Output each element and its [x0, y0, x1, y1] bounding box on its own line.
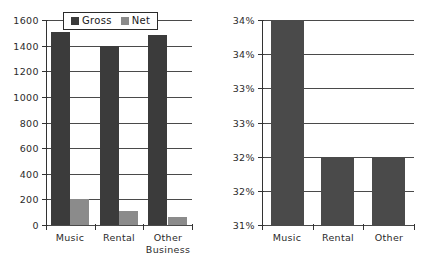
y-tick-label: 33%: [233, 118, 255, 129]
y-tick-label: 1400: [13, 41, 39, 52]
x-axis-label-rental: Rental: [322, 232, 354, 244]
y-tick-label: 1200: [13, 66, 39, 77]
bar-gross-rental: [100, 46, 119, 225]
y-tick-label: 32%: [233, 152, 255, 163]
x-tick-mark: [363, 224, 364, 230]
y-tick-label: 0: [33, 220, 39, 231]
y-tick-label: 200: [20, 194, 39, 205]
gridline: [46, 225, 192, 226]
bar-margin-other: [372, 157, 405, 225]
x-axis-label-other: Other: [375, 232, 403, 244]
left-chart-plot-area: 02004006008001000120014001600MusicRental…: [46, 20, 192, 226]
x-tick-mark: [143, 224, 144, 230]
y-tick-mark: [42, 225, 48, 226]
legend-label-gross: Gross: [82, 15, 112, 26]
two-panel-bar-chart-figure: 02004006008001000120014001600MusicRental…: [0, 0, 421, 275]
y-tick-label: 1000: [13, 92, 39, 103]
legend-label-net: Net: [132, 15, 150, 26]
x-tick-mark: [313, 224, 314, 230]
y-tick-mark: [258, 225, 264, 226]
chart-legend: Gross Net: [63, 12, 158, 30]
left-chart-panel: 02004006008001000120014001600MusicRental…: [0, 0, 211, 275]
legend-swatch-gross-icon: [71, 17, 79, 25]
bar-gross-music: [51, 32, 70, 225]
x-axis-label-other-business: OtherBusiness: [146, 232, 190, 256]
y-tick-mark: [258, 54, 264, 55]
y-tick-label: 400: [20, 169, 39, 180]
right-chart-plot-area: 31%32%32%33%33%34%34%MusicRentalOther: [262, 20, 414, 226]
legend-item-gross: Gross: [71, 15, 112, 26]
y-tick-label: 1600: [13, 15, 39, 26]
bar-net-other-business: [168, 217, 187, 225]
right-chart-panel: 31%32%32%33%33%34%34%MusicRentalOther: [210, 0, 421, 275]
bar-gross-other-business: [148, 35, 167, 225]
x-tick-mark: [192, 224, 193, 230]
x-axis-label-rental: Rental: [103, 232, 135, 244]
x-tick-mark: [95, 224, 96, 230]
y-tick-label: 32%: [233, 186, 255, 197]
x-tick-mark-origin: [262, 224, 263, 230]
y-tick-mark: [42, 199, 48, 200]
y-tick-mark: [42, 174, 48, 175]
legend-swatch-net-icon: [121, 17, 129, 25]
bar-margin-rental: [321, 157, 354, 225]
x-tick-mark: [414, 224, 415, 230]
x-axis-label-music: Music: [56, 232, 85, 244]
bar-net-rental: [119, 211, 138, 225]
y-tick-mark: [42, 97, 48, 98]
x-axis-label-music: Music: [273, 232, 302, 244]
bar-net-music: [70, 199, 89, 225]
gridline: [262, 225, 414, 226]
y-tick-mark: [258, 157, 264, 158]
legend-item-net: Net: [121, 15, 150, 26]
y-tick-label: 33%: [233, 83, 255, 94]
y-tick-label: 34%: [233, 49, 255, 60]
y-tick-mark: [258, 20, 264, 21]
x-tick-mark-origin: [46, 224, 47, 230]
y-tick-label: 34%: [233, 15, 255, 26]
y-tick-mark: [42, 71, 48, 72]
y-tick-mark: [258, 191, 264, 192]
y-tick-mark: [42, 123, 48, 124]
y-tick-mark: [258, 88, 264, 89]
y-tick-label: 600: [20, 143, 39, 154]
y-tick-label: 800: [20, 118, 39, 129]
y-tick-label: 31%: [233, 220, 255, 231]
y-tick-mark: [258, 123, 264, 124]
y-tick-mark: [42, 148, 48, 149]
bar-margin-music: [271, 20, 304, 225]
y-tick-mark: [42, 20, 48, 21]
y-tick-mark: [42, 46, 48, 47]
